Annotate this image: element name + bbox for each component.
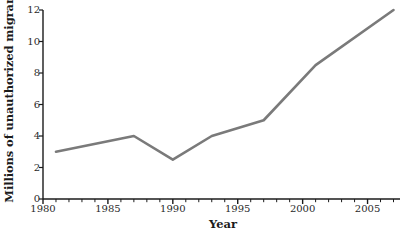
x-axis-tick-label: 1990: [153, 203, 193, 214]
axis-ticks: [39, 10, 394, 204]
axes: [43, 10, 400, 199]
plot-area: [0, 0, 406, 237]
x-axis-tick-label: 1985: [88, 203, 128, 214]
x-axis-tick-label: 2005: [348, 203, 388, 214]
x-axis-tick-label: 1995: [218, 203, 258, 214]
line-chart: Millions of unauthorized migrants 024681…: [0, 0, 406, 237]
data-series: [56, 10, 394, 160]
x-axis-title: Year: [43, 217, 403, 231]
x-axis-tick-label: 2000: [283, 203, 323, 214]
x-axis-tick-label: 1980: [23, 203, 63, 214]
series-line-0: [56, 10, 394, 160]
